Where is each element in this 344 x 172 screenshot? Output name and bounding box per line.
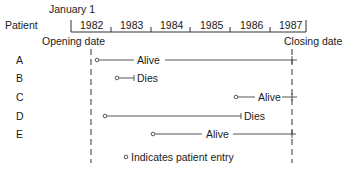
patient-c-outcome: Alive xyxy=(258,91,281,103)
entry-marker-icon xyxy=(124,155,128,159)
patient-e-outcome: Alive xyxy=(206,128,229,140)
patient-a-label: A xyxy=(16,54,23,66)
legend-text: Indicates patient entry xyxy=(131,151,234,163)
patient-b-outcome: Dies xyxy=(137,72,158,84)
patient-b-label: B xyxy=(16,72,23,84)
timeline-graphic xyxy=(0,0,344,172)
patient-d-outcome: Dies xyxy=(244,110,265,122)
patient-e-label: E xyxy=(16,128,23,140)
patient-a-outcome: Alive xyxy=(137,54,160,66)
patient-d-label: D xyxy=(16,110,24,122)
patient-c-label: C xyxy=(16,91,24,103)
